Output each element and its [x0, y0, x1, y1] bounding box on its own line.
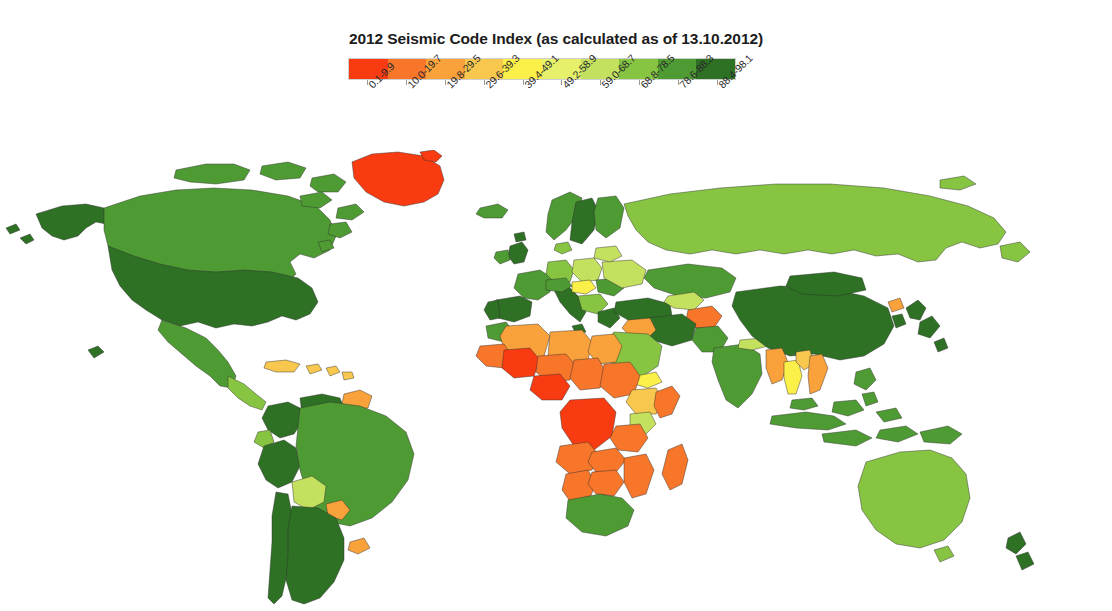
map-region: Malaysia — 78.6-88.3 — [790, 398, 818, 410]
map-region: New Zealand — 88.4-98.1 — [1006, 532, 1026, 554]
map-region: Caribbean — 29.6-39.3 — [326, 366, 340, 376]
map-region: Russia — 68.8-78.5 — [624, 184, 1006, 262]
map-region: Australia — 68.8-78.5 — [934, 546, 954, 562]
map-region: Alaska (USA) — 88.4-98.1 — [6, 224, 20, 234]
map-region: Alaska (USA) — 88.4-98.1 — [36, 204, 112, 240]
map-region: Philippines — 78.6-88.3 — [854, 368, 876, 390]
map-region: Philippines — 78.6-88.3 — [862, 392, 878, 406]
map-region: Caribbean — 29.6-39.3 — [264, 360, 300, 372]
map-region: Denmark — 68.8-78.5 — [554, 242, 572, 254]
legend-labels: 0.1-9.910.0-19.719.8-29.529.6-39.339.4-4… — [348, 82, 736, 142]
map-region: United Kingdom — 88.4-98.1 — [514, 232, 526, 242]
map-region: Belarus — 59.0-68.7 — [594, 246, 622, 262]
map-region: Iceland — 78.6-88.3 — [476, 204, 508, 218]
map-region: Alaska (USA) — 88.4-98.1 — [20, 234, 34, 244]
map-region: North Korea — 19.8-29.5 — [888, 298, 904, 312]
map-region: New Zealand — 88.4-98.1 — [1016, 552, 1034, 570]
map-region: Peru — 88.4-98.1 — [258, 440, 300, 488]
map-region: Botswana — 10.0-19.7 — [588, 470, 624, 496]
map-region: Ireland — 78.6-88.3 — [494, 250, 510, 264]
chart-title: 2012 Seismic Code Index (as calculated a… — [0, 30, 1112, 48]
map-region: Finland — 78.6-88.3 — [594, 196, 624, 238]
map-region: Indonesia — 78.6-88.3 — [770, 412, 846, 430]
map-region: Malaysia — 78.6-88.3 — [832, 400, 864, 416]
map-region: Caribbean — 29.6-39.3 — [342, 372, 354, 380]
map-region: India — 78.6-88.3 — [712, 344, 762, 408]
map-region: Russia — 68.8-78.5 — [940, 176, 976, 190]
map-region: Japan — 88.4-98.1 — [906, 300, 926, 320]
map-region: Hungary — 39.4-49.1 — [572, 280, 596, 294]
map-region: Uruguay — 19.8-29.5 — [348, 538, 370, 554]
map-region: Indonesia — 78.6-88.3 — [876, 426, 918, 442]
map-region: Mozambique — 10.0-19.7 — [624, 454, 654, 498]
map-region: Canada — 78.6-88.3 — [174, 164, 250, 184]
map-region: Central America — 68.8-78.5 — [228, 376, 266, 410]
world-map-svg: Greenland — 0.1-9.9Greenland — 0.1-9.9Al… — [0, 150, 1112, 605]
map-region: Russia — 68.8-78.5 — [1000, 242, 1030, 262]
figure-canvas: · · · · · · · · · · · · · · · · · · · · … — [0, 0, 1112, 611]
map-region: United Kingdom — 88.4-98.1 — [508, 242, 528, 264]
map-region: Argentina — 88.4-98.1 — [286, 506, 344, 604]
map-region: Vietnam — 19.8-29.5 — [808, 354, 828, 394]
cutoff-text-sliver: · · · · · · · · · · · · · · · · · · · · … — [34, 0, 1074, 5]
map-region: Australia — 68.8-78.5 — [858, 450, 970, 548]
map-region: Caribbean — 29.6-39.3 — [306, 364, 322, 374]
map-region: Canada — 78.6-88.3 — [336, 204, 364, 220]
map-region: Canada — 78.6-88.3 — [310, 174, 346, 192]
map-region: Mexico — 78.6-88.3 — [158, 320, 236, 388]
map-region: Poland — 59.0-68.7 — [572, 258, 602, 282]
map-region: Japan — 88.4-98.1 — [918, 316, 940, 338]
map-region: Indonesia — 78.6-88.3 — [876, 408, 902, 422]
map-region: Canada — 78.6-88.3 — [260, 162, 306, 180]
map-region: Tanzania — 10.0-19.7 — [610, 424, 648, 452]
map-region: Portugal — 88.4-98.1 — [484, 300, 500, 320]
map-region: Papua New Guinea — 78.6-88.3 — [920, 426, 962, 444]
map-region: South Africa — 78.6-88.3 — [566, 494, 634, 536]
map-region: Japan — 88.4-98.1 — [934, 338, 948, 352]
map-region: Canada — 78.6-88.3 — [300, 192, 332, 208]
map-region: Zambia — 10.0-19.7 — [588, 448, 626, 472]
legend: 0.1-9.910.0-19.719.8-29.529.6-39.339.4-4… — [348, 58, 736, 80]
map-region: Indonesia — 78.6-88.3 — [822, 430, 872, 446]
map-region: United States of America — 88.4-98.1 — [88, 346, 104, 358]
world-map: Greenland — 0.1-9.9Greenland — 0.1-9.9Al… — [0, 150, 1112, 605]
map-region: Madagascar — 10.0-19.7 — [662, 444, 688, 490]
